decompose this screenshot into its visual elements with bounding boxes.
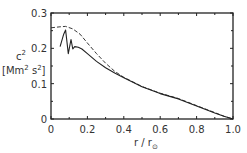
series-dashed-line (51, 26, 233, 119)
y-tick-label: 0.1 (31, 79, 47, 90)
x-tick-label: 0.8 (189, 124, 205, 135)
x-tick-label: 0.6 (152, 124, 168, 135)
y-tick-label: 0.2 (31, 43, 47, 54)
x-tick-label: 0.4 (116, 124, 132, 135)
y-tick-label: 0.3 (31, 8, 47, 19)
axis-ticks (51, 13, 233, 119)
chart: 00.20.40.60.81.000.10.20.3 c2 [Mm2 s2] r… (0, 0, 247, 153)
x-tick-label: 0 (48, 124, 54, 135)
x-tick-label: 0.2 (79, 124, 95, 135)
y-axis-title-unit: [Mm2 s2] (2, 64, 46, 76)
y-axis-title-var: c2 (16, 49, 26, 62)
y-tick-label: 0 (41, 114, 47, 125)
x-tick-label: 1.0 (225, 124, 241, 135)
x-axis-title: r / r⊙ (134, 137, 158, 151)
series-solid-line (60, 30, 233, 119)
tick-labels: 00.20.40.60.81.000.10.20.3 (31, 8, 241, 135)
plot-frame (51, 13, 233, 119)
data-series (51, 26, 233, 119)
